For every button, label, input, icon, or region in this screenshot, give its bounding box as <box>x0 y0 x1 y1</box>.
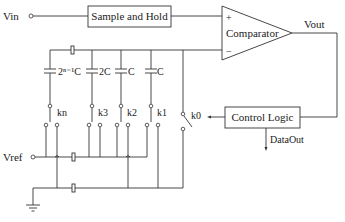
dataout-arrow-icon <box>265 147 268 151</box>
vref-label: Vref <box>3 151 23 163</box>
dataout-label: DataOut <box>270 134 304 145</box>
comparator-plus: + <box>226 12 232 23</box>
switch-label: k0 <box>191 110 201 121</box>
vin-label: Vin <box>3 10 19 22</box>
comparator-label: Comparator <box>226 27 279 39</box>
comparator-minus: − <box>226 46 232 57</box>
vout-label: Vout <box>304 18 325 30</box>
bus-break-icon <box>72 153 75 161</box>
switch-label: kn <box>57 107 67 118</box>
capacitor-label: C <box>128 66 135 77</box>
vref-terminal <box>31 155 35 159</box>
circuit-diagram: Vin Sample and Hold + − Comparator Vout … <box>0 0 345 222</box>
switch-label: k1 <box>157 107 167 118</box>
control-logic-label: Control Logic <box>231 111 293 123</box>
capacitor-label: 2ⁿ⁻¹C <box>58 66 81 77</box>
switch-label: k2 <box>127 107 137 118</box>
capacitor-label: 2C <box>99 66 111 77</box>
control-arrow-icon <box>207 116 211 119</box>
switch-label: k3 <box>98 107 108 118</box>
sample-hold-label: Sample and Hold <box>91 10 168 22</box>
bus-break-icon <box>72 184 75 192</box>
capacitor-label: C <box>157 66 164 77</box>
bus-break-icon <box>71 46 74 54</box>
vin-terminal <box>29 14 33 18</box>
